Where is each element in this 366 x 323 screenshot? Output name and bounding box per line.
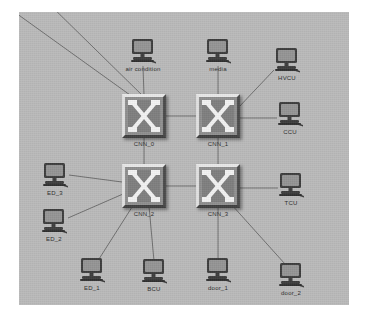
endpoint-label-ccu: CCU: [283, 128, 297, 136]
endpoint-label-bcu: BCU: [147, 285, 160, 293]
computer-icon: [38, 161, 72, 189]
switch-node-cnn-1[interactable]: CNN_1: [196, 94, 240, 138]
computer-icon: [75, 256, 109, 284]
switch-label-cnn-1: CNN_1: [208, 140, 229, 148]
link-cnn2-ed1: [99, 204, 134, 259]
endpoint-label-ed-2: ED_2: [46, 235, 62, 243]
diagram-canvas: CNN_0 CNN_1: [19, 12, 349, 305]
endpoint-node-air-condition[interactable]: air condition: [126, 37, 160, 71]
computer-icon: [126, 37, 160, 65]
endpoint-label-ed-3: ED_3: [47, 189, 63, 197]
computer-icon: [37, 207, 71, 235]
endpoint-label-door-1: door_1: [208, 284, 228, 292]
switch-x-icon: [199, 167, 237, 205]
endpoint-label-hvcu: HVCU: [278, 74, 296, 82]
endpoint-node-ed-1[interactable]: ED_1: [75, 256, 109, 290]
endpoint-node-door-1[interactable]: door_1: [201, 256, 235, 290]
computer-icon: [201, 37, 235, 65]
endpoint-node-hvcu[interactable]: HVCU: [270, 46, 304, 80]
endpoint-label-air-condition: air condition: [126, 65, 161, 73]
endpoint-label-ed-1: ED_1: [84, 284, 100, 292]
switch-x-icon: [125, 97, 163, 135]
network-topology-diagram: CNN_0 CNN_1: [0, 0, 366, 323]
computer-icon: [270, 46, 304, 74]
endpoint-node-door-2[interactable]: door_2: [274, 261, 308, 295]
switch-label-cnn-3: CNN_3: [208, 210, 229, 218]
link-cnn1-hvcu: [238, 70, 274, 108]
switch-x-icon: [125, 167, 163, 205]
computer-icon: [274, 261, 308, 289]
computer-icon: [273, 100, 307, 128]
switch-node-cnn-2[interactable]: CNN_2: [122, 164, 166, 208]
switch-label-cnn-0: CNN_0: [134, 140, 155, 148]
switch-x-icon: [199, 97, 237, 135]
link-cnn2-ed2: [68, 194, 123, 218]
endpoint-node-tcu[interactable]: TCU: [274, 171, 308, 205]
endpoint-label-door-2: door_2: [281, 289, 301, 297]
link-cnn2-ed3: [69, 175, 122, 182]
computer-icon: [201, 256, 235, 284]
endpoint-node-bcu[interactable]: BCU: [137, 257, 171, 291]
computer-icon: [137, 257, 171, 285]
endpoint-node-media[interactable]: media: [201, 37, 235, 71]
link-cnn0-offscreen-a: [19, 12, 137, 100]
endpoint-node-ccu[interactable]: CCU: [273, 100, 307, 134]
endpoint-node-ed-3[interactable]: ED_3: [38, 161, 72, 195]
switch-label-cnn-2: CNN_2: [134, 210, 155, 218]
switch-node-cnn-3[interactable]: CNN_3: [196, 164, 240, 208]
endpoint-node-ed-2[interactable]: ED_2: [37, 207, 71, 241]
endpoint-label-tcu: TCU: [285, 199, 298, 207]
endpoint-label-media: media: [209, 65, 226, 73]
link-cnn3-door2: [231, 204, 285, 264]
computer-icon: [274, 171, 308, 199]
switch-node-cnn-0[interactable]: CNN_0: [122, 94, 166, 138]
